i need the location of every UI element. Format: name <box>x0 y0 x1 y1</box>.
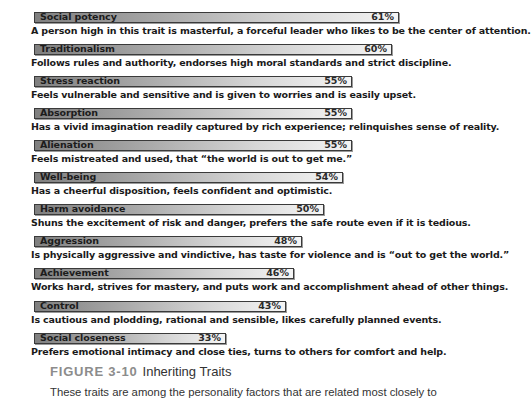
bar-value: 55% <box>324 107 347 118</box>
trait-description: Shuns the excitement of risk and danger,… <box>31 217 471 228</box>
bar-label: Social closeness <box>40 332 126 343</box>
trait-description: Feels mistreated and used, that “the wor… <box>31 153 352 164</box>
bar: Achievement 46% <box>34 268 294 279</box>
bar-label: Control <box>40 300 79 311</box>
trait-description: Has a vivid imagination readily captured… <box>31 121 499 132</box>
bar-value: 55% <box>324 75 347 86</box>
bar-value: 46% <box>266 267 289 278</box>
bar-label: Achievement <box>40 267 109 278</box>
bar: Social potency 61% <box>34 12 399 23</box>
trait-description: Follows rules and authority, endorses hi… <box>31 57 451 68</box>
bar: Social closeness 33% <box>34 333 226 344</box>
bar-value: 50% <box>296 203 319 214</box>
bar-value: 60% <box>364 43 387 54</box>
bar: Traditionalism 60% <box>34 44 392 55</box>
bar-label: Aggression <box>40 235 99 246</box>
figure-caption: FIGURE 3-10Inheriting Traits <box>50 364 231 379</box>
bar-value: 43% <box>258 300 281 311</box>
bar: Stress reaction 55% <box>34 76 352 87</box>
figure-title: Inheriting Traits <box>143 364 232 379</box>
bar: Absorption 55% <box>34 108 352 119</box>
bar-value: 33% <box>198 332 221 343</box>
caption-body-text: These traits are among the personality f… <box>50 386 437 398</box>
bar: Control 43% <box>34 301 286 312</box>
bar-value: 61% <box>371 11 394 22</box>
bar-value: 54% <box>315 171 338 182</box>
bar-label: Social potency <box>40 11 117 22</box>
bar-label: Absorption <box>40 107 98 118</box>
figure-number: FIGURE 3-10 <box>50 364 138 379</box>
trait-description: Prefers emotional intimacy and close tie… <box>31 346 446 357</box>
bar-label: Traditionalism <box>40 43 115 54</box>
bar-label: Well-being <box>40 171 96 182</box>
bar-value: 48% <box>274 235 297 246</box>
bar: Aggression 48% <box>34 236 302 247</box>
bar-value: 55% <box>324 139 347 150</box>
bar: Harm avoidance 50% <box>34 204 324 215</box>
bar-label: Harm avoidance <box>40 203 125 214</box>
bar: Alienation 55% <box>34 140 352 151</box>
bar: Well-being 54% <box>34 172 343 183</box>
trait-description: Is cautious and plodding, rational and s… <box>31 314 441 325</box>
trait-description: A person high in this trait is masterful… <box>31 25 531 36</box>
trait-description: Works hard, strives for mastery, and put… <box>31 281 508 292</box>
trait-description: Has a cheerful disposition, feels confid… <box>31 185 332 196</box>
bar-label: Stress reaction <box>40 75 120 86</box>
trait-description: Feels vulnerable and sensitive and is gi… <box>31 89 416 100</box>
trait-description: Is physically aggressive and vindictive,… <box>31 249 509 260</box>
bar-label: Alienation <box>40 139 94 150</box>
